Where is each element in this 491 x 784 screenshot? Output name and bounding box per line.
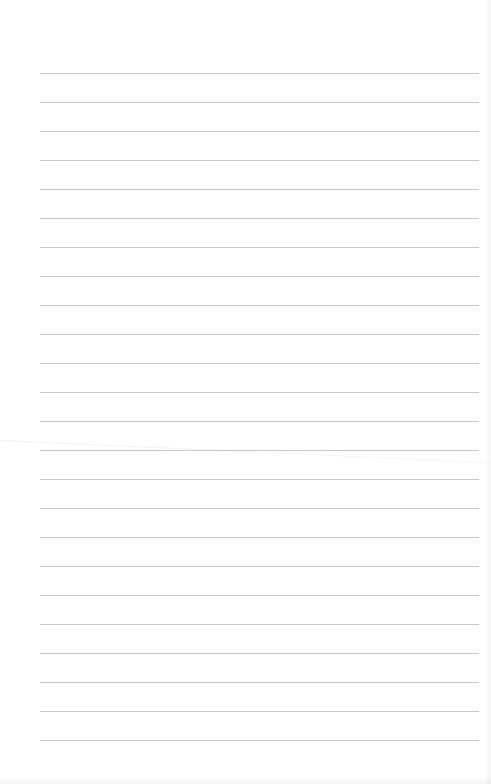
ruled-line [40,537,479,538]
ruled-line [40,334,479,335]
ruled-line [40,276,479,277]
ruled-line [40,624,479,625]
ruled-line [40,73,479,74]
ruled-line [40,102,479,103]
ruled-line [40,363,479,364]
ruled-line [40,508,479,509]
ruled-line [40,131,479,132]
ruled-line [40,653,479,654]
ruled-line [40,740,479,741]
ruled-line [40,189,479,190]
ruled-line [40,392,479,393]
ruled-line [40,682,479,683]
ruled-line [40,247,479,248]
ruled-line [40,305,479,306]
ruled-line [40,421,479,422]
ruled-line [40,479,479,480]
ruled-lines [0,0,491,784]
ruled-line [40,218,479,219]
ruled-line [40,566,479,567]
ruled-line [40,595,479,596]
lined-paper-sheet [0,0,491,784]
ruled-line [40,160,479,161]
ruled-line [40,711,479,712]
ruled-line [40,450,479,451]
